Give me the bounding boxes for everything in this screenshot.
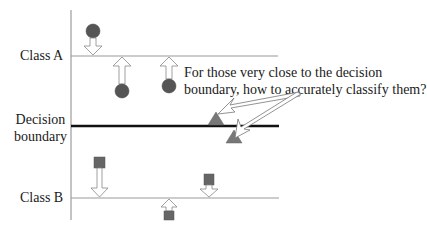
diagram-canvas [0,0,427,234]
circle-icon [115,84,129,98]
circle-icon [162,79,176,93]
class-b-point-3 [200,174,218,197]
class-b-point-2 [161,199,177,220]
class-b-point-1 [91,157,108,197]
class-a-point-1 [84,24,102,55]
circle-icon [86,24,100,38]
square-icon [204,174,214,185]
down-arrow-icon [84,38,102,55]
class-a-point-3 [160,57,178,93]
up-arrow-icon [161,199,177,211]
down-arrow-icon [91,168,108,197]
class-a-point-2 [113,57,131,98]
pointer-arrow-1 [218,92,300,114]
square-icon [164,211,174,220]
square-icon [94,157,105,168]
up-arrow-icon [160,57,178,79]
down-arrow-icon [200,185,218,197]
up-arrow-icon [113,57,131,84]
